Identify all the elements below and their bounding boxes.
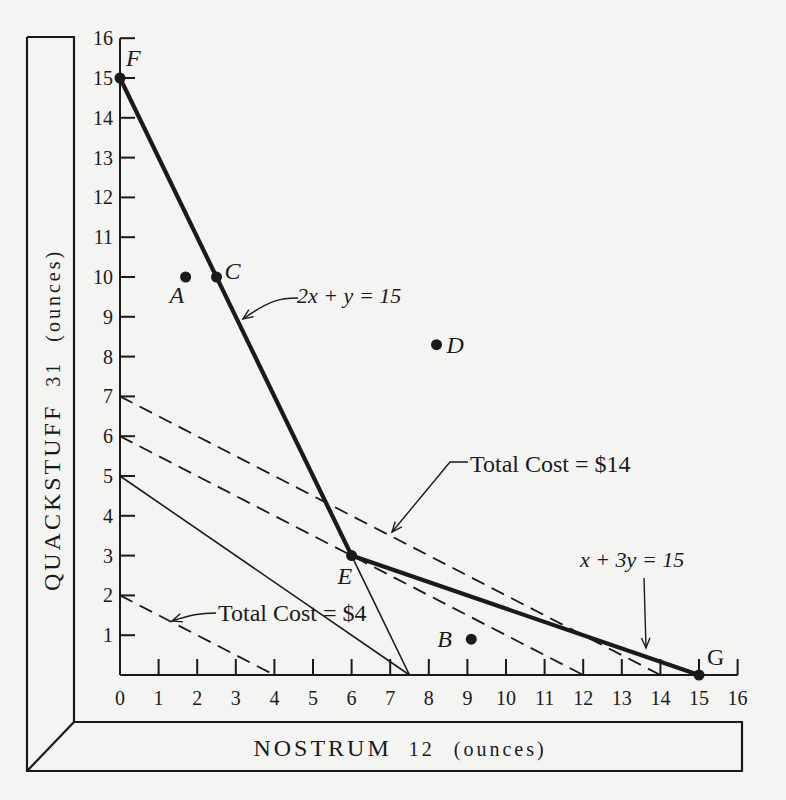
x-tick-label: 2 — [192, 687, 202, 709]
x-tick-label: 1 — [154, 687, 164, 709]
y-tick-label: 1 — [103, 624, 113, 646]
x-axis-title: NOSTRUM 12 (ounces) — [253, 735, 546, 761]
point-label: G — [707, 644, 724, 670]
y-tick-label: 16 — [93, 27, 113, 49]
x-axis-title-unit: (ounces) — [454, 738, 547, 761]
y-tick-label: 9 — [103, 306, 113, 328]
y-tick-label: 11 — [94, 226, 113, 248]
annotation-leader — [172, 613, 216, 621]
point-label: E — [337, 563, 353, 589]
x-tick-label: 8 — [424, 687, 434, 709]
point-marker — [115, 73, 126, 84]
x-tick-label: 16 — [728, 687, 748, 709]
annotation-label: x + 3y = 15 — [579, 547, 684, 572]
annotation-leader — [392, 462, 468, 532]
y-tick-label: 2 — [103, 584, 113, 606]
x-axis-title-num: 12 — [409, 738, 435, 760]
x-tick-label: 14 — [650, 687, 670, 709]
annotation-label: Total Cost = $4 — [218, 600, 367, 626]
point-label: F — [125, 45, 141, 71]
y-tick-label: 7 — [103, 385, 113, 407]
y-tick-label: 13 — [93, 147, 113, 169]
x-tick-label: 12 — [573, 687, 593, 709]
y-tick-label: 8 — [103, 346, 113, 368]
point-label: A — [168, 282, 185, 308]
series-line — [120, 78, 352, 556]
frame-bevel — [28, 722, 74, 770]
y-tick-label: 15 — [93, 67, 113, 89]
y-tick-label: 4 — [103, 505, 113, 527]
x-tick-label: 11 — [535, 687, 554, 709]
x-tick-label: 7 — [385, 687, 395, 709]
point-marker — [431, 339, 442, 350]
x-tick-label: 15 — [689, 687, 709, 709]
annotation-leader — [644, 578, 646, 648]
y-tick-label: 3 — [103, 545, 113, 567]
annotation-label: Total Cost = $14 — [470, 451, 631, 477]
annotation-arrowhead-icon — [243, 310, 254, 319]
point-label: C — [225, 258, 242, 284]
point-label: D — [446, 332, 464, 358]
x-tick-label: 0 — [115, 687, 125, 709]
linear-programming-chart: QUACKSTUFF 31 (ounces) NOSTRUM 12 (ounce… — [0, 0, 786, 800]
y-tick-label: 14 — [93, 107, 113, 129]
x-tick-label: 9 — [462, 687, 472, 709]
y-axis-title-num: 31 — [42, 361, 64, 387]
x-tick-label: 13 — [612, 687, 632, 709]
annotation-label: 2x + y = 15 — [297, 283, 401, 308]
series-line — [352, 556, 699, 675]
point-marker — [211, 272, 222, 283]
plot-area: 0123456789101112131415161234567891011121… — [93, 27, 748, 709]
y-tick-label: 12 — [93, 186, 113, 208]
series-line — [120, 396, 660, 675]
x-tick-label: 4 — [269, 687, 279, 709]
svg-text:QUACKSTUFF 31 (oun: QUACKSTUFF 31 (ounces) — [39, 249, 65, 591]
point-label: B — [437, 626, 452, 652]
point-marker — [346, 550, 357, 561]
point-marker — [466, 634, 477, 645]
point-marker — [180, 272, 191, 283]
x-axis-title-name: NOSTRUM — [253, 735, 391, 761]
annotation-leader — [243, 298, 298, 319]
x-tick-label: 3 — [231, 687, 241, 709]
y-axis-title: QUACKSTUFF 31 (ounces) — [39, 249, 65, 591]
y-tick-label: 5 — [103, 465, 113, 487]
series-line — [120, 476, 410, 675]
x-tick-label: 6 — [347, 687, 357, 709]
y-axis-title-name: QUACKSTUFF — [39, 404, 65, 591]
y-axis-title-unit: (ounces) — [42, 249, 65, 342]
point-marker — [694, 670, 705, 681]
y-tick-label: 10 — [93, 266, 113, 288]
x-tick-label: 5 — [308, 687, 318, 709]
x-tick-label: 10 — [496, 687, 516, 709]
y-tick-label: 6 — [103, 425, 113, 447]
